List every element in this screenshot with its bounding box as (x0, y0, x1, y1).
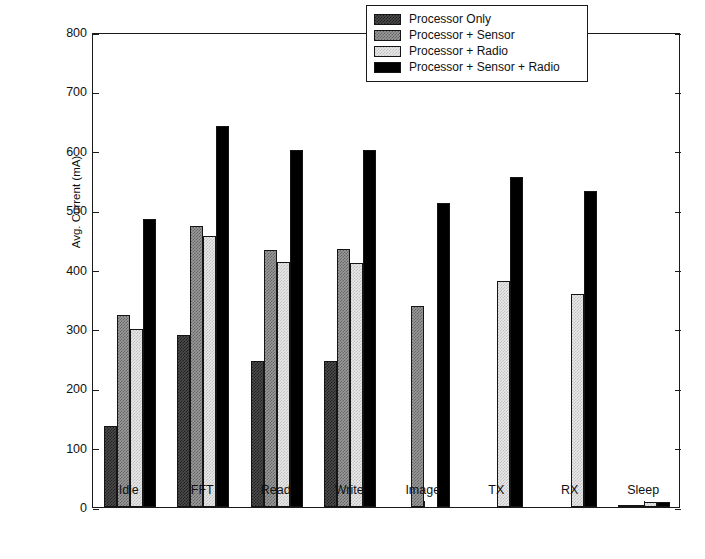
x-tick-label: Sleep (627, 483, 659, 497)
y-tick-mark (93, 449, 99, 450)
y-tick-mark (93, 509, 99, 510)
bar (264, 250, 277, 507)
y-tick-mark-right (675, 212, 681, 213)
legend-swatch (374, 30, 401, 41)
bar-chart-figure: 0100200300400500600700800 Avg. Current (… (0, 0, 705, 559)
x-tick-mark (424, 501, 425, 507)
bar (571, 294, 584, 507)
bar (216, 126, 229, 507)
y-tick-mark-right (675, 509, 681, 510)
bar (631, 505, 644, 507)
chart-legend: Processor OnlyProcessor + SensorProcesso… (366, 5, 588, 82)
y-tick-mark-right (675, 330, 681, 331)
bar (177, 335, 190, 507)
legend-item: Processor + Radio (374, 44, 580, 59)
y-tick-mark (93, 212, 99, 213)
bar (337, 249, 350, 507)
bar (203, 236, 216, 507)
bar (584, 191, 597, 507)
legend-label: Processor + Sensor + Radio (409, 61, 560, 74)
legend-item: Processor Only (374, 12, 580, 27)
x-tick-label: Write (335, 483, 364, 497)
bar (104, 426, 117, 507)
bar (363, 150, 376, 507)
bar (117, 315, 130, 507)
y-tick-label: 200 (66, 382, 87, 396)
bar (277, 262, 290, 507)
y-axis-title: Avg. Current (mA) (70, 102, 82, 302)
legend-item: Processor + Sensor (374, 28, 580, 43)
plot-area: 0100200300400500600700800 (92, 33, 680, 508)
y-tick-mark-right (675, 449, 681, 450)
legend-item: Processor + Sensor + Radio (374, 60, 580, 75)
bar (290, 150, 303, 507)
x-tick-label: RX (561, 483, 578, 497)
legend-label: Processor Only (409, 13, 491, 26)
y-tick-mark (93, 330, 99, 331)
y-tick-mark-right (675, 34, 681, 35)
legend-swatch (374, 62, 401, 73)
bar (618, 505, 631, 507)
bar (644, 502, 657, 507)
bar (497, 281, 510, 507)
y-tick-label: 700 (66, 85, 87, 99)
y-tick-mark-right (675, 93, 681, 94)
bar (143, 219, 156, 507)
legend-label: Processor + Radio (409, 45, 508, 58)
y-tick-label: 300 (66, 323, 87, 337)
x-tick-label: Idle (119, 483, 139, 497)
x-tick-label: Image (405, 483, 440, 497)
y-tick-mark (93, 152, 99, 153)
bar (130, 329, 143, 507)
y-tick-mark-right (675, 271, 681, 272)
x-tick-label: Read (261, 483, 291, 497)
y-tick-mark (93, 271, 99, 272)
y-tick-mark (93, 390, 99, 391)
legend-swatch (374, 46, 401, 57)
bar (510, 177, 523, 507)
y-tick-label: 0 (80, 501, 87, 515)
legend-label: Processor + Sensor (409, 29, 515, 42)
bar (411, 306, 424, 507)
bar (350, 263, 363, 507)
y-tick-mark (93, 34, 99, 35)
bar (437, 203, 450, 507)
legend-swatch (374, 14, 401, 25)
x-tick-label: FFT (191, 483, 214, 497)
x-tick-label: TX (488, 483, 504, 497)
bar (190, 226, 203, 507)
y-tick-label: 100 (66, 442, 87, 456)
y-tick-label: 800 (66, 26, 87, 40)
bar (657, 502, 670, 507)
y-tick-mark-right (675, 152, 681, 153)
y-tick-mark-right (675, 390, 681, 391)
y-tick-mark (93, 93, 99, 94)
